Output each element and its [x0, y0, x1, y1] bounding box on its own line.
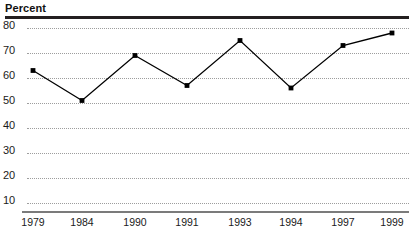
series-layer — [0, 0, 414, 240]
x-tick-label-1979: 1979 — [13, 216, 53, 228]
x-tick-label-1997: 1997 — [323, 216, 363, 228]
data-point-1993 — [238, 38, 243, 43]
x-tick-label-1994: 1994 — [271, 216, 311, 228]
data-point-1979 — [31, 68, 36, 73]
x-tick-label-1991: 1991 — [167, 216, 207, 228]
x-tick-label-1984: 1984 — [62, 216, 102, 228]
data-point-1999 — [390, 31, 395, 36]
x-tick-label-1999: 1999 — [372, 216, 412, 228]
data-point-1991 — [185, 83, 190, 88]
x-tick-label-1993: 1993 — [220, 216, 260, 228]
data-point-1984 — [80, 98, 85, 103]
data-point-1997 — [341, 43, 346, 48]
series-polyline — [33, 33, 392, 101]
x-tick-label-1990: 1990 — [115, 216, 155, 228]
data-point-1994 — [289, 86, 294, 91]
data-point-1990 — [133, 53, 138, 58]
x-axis-rule — [22, 211, 409, 213]
line-chart: Percent 80 70 60 50 40 30 20 10 1979 198… — [0, 0, 414, 240]
series-markers — [31, 31, 395, 103]
